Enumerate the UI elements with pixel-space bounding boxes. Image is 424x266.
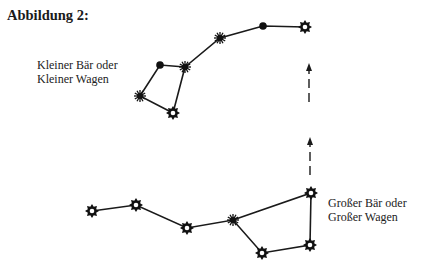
star-dot-icon (259, 22, 267, 30)
star-dot-icon (156, 61, 164, 69)
constellation-diagram (0, 0, 424, 266)
star-sun-icon (255, 246, 269, 260)
star-sun-icon (304, 186, 318, 200)
star-sun-icon (166, 106, 180, 120)
pointer-arrow (307, 137, 313, 175)
star-sun-icon (85, 204, 99, 218)
figure: Abbildung 2: Kleiner Bär oder Kleiner Wa… (0, 0, 424, 266)
star-sun-icon (129, 198, 143, 212)
star-asterisk-icon (134, 90, 146, 102)
pointer-arrow (306, 63, 312, 102)
star-sun-icon (180, 221, 194, 235)
star-sun-icon (303, 238, 317, 252)
big-dipper-lines (92, 193, 311, 253)
star-sun-icon (298, 20, 312, 34)
